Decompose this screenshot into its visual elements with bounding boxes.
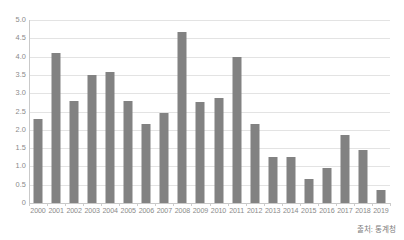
- bar-2002[interactable]: [70, 101, 79, 203]
- x-axis-tick-label-2018: 2018: [354, 206, 372, 216]
- y-axis-tick-label: 0.5: [0, 181, 26, 189]
- bar-2010[interactable]: [214, 98, 223, 203]
- x-axis-tick-label-2008: 2008: [173, 206, 191, 216]
- bar-slot: [155, 20, 173, 203]
- x-axis-tick-label-2004: 2004: [101, 206, 119, 216]
- bar-slot: [137, 20, 155, 203]
- y-axis-tick-label: 2.0: [0, 126, 26, 134]
- x-axis-tick-label-2003: 2003: [83, 206, 101, 216]
- bar-2016[interactable]: [322, 168, 331, 203]
- y-axis-tick-label-group: 00.51.01.52.02.53.03.54.04.55.0: [0, 0, 26, 240]
- bar-2013[interactable]: [268, 157, 277, 203]
- bar-2012[interactable]: [250, 124, 259, 203]
- bar-slot: [318, 20, 336, 203]
- bar-2007[interactable]: [160, 113, 169, 203]
- bar-slot: [191, 20, 209, 203]
- bar-slot: [210, 20, 228, 203]
- x-axis-tick-label-2000: 2000: [29, 206, 47, 216]
- bar-slot: [83, 20, 101, 203]
- bar-2015[interactable]: [304, 179, 313, 203]
- bar-2001[interactable]: [52, 53, 61, 203]
- x-axis-tick-label-2009: 2009: [191, 206, 209, 216]
- y-axis-tick-label: 0: [0, 199, 26, 207]
- x-axis-tick-label-2016: 2016: [318, 206, 336, 216]
- x-axis-tick-label-2015: 2015: [300, 206, 318, 216]
- x-axis-tick-label-2017: 2017: [336, 206, 354, 216]
- y-axis-tick-label: 5.0: [0, 16, 26, 24]
- x-axis-tick-label-2006: 2006: [137, 206, 155, 216]
- bar-slot: [264, 20, 282, 203]
- x-axis-tick-label-2002: 2002: [65, 206, 83, 216]
- bar-2011[interactable]: [232, 57, 241, 203]
- y-axis-tick-label: 4.5: [0, 34, 26, 42]
- bar-slot: [228, 20, 246, 203]
- y-axis-tick-label: 1.0: [0, 162, 26, 170]
- bar-2005[interactable]: [124, 101, 133, 203]
- x-axis-tick-label-2019: 2019: [372, 206, 390, 216]
- x-axis-tick-label-2001: 2001: [47, 206, 65, 216]
- x-axis-tick-label-2011: 2011: [228, 206, 246, 216]
- bar-slot: [101, 20, 119, 203]
- bar-series: [29, 20, 390, 203]
- y-axis-tick-label: 3.0: [0, 89, 26, 97]
- bar-slot: [282, 20, 300, 203]
- bar-2000[interactable]: [34, 119, 43, 203]
- bar-2004[interactable]: [106, 72, 115, 203]
- x-axis-tick-label-2010: 2010: [210, 206, 228, 216]
- x-axis-tick-label-2007: 2007: [155, 206, 173, 216]
- x-axis-tick-label-2012: 2012: [246, 206, 264, 216]
- y-axis-tick-label: 3.5: [0, 71, 26, 79]
- source-note: 출처: 통계청: [357, 225, 396, 235]
- bar-slot: [354, 20, 372, 203]
- bar-slot: [119, 20, 137, 203]
- x-axis-tick-label-2013: 2013: [264, 206, 282, 216]
- bar-slot: [246, 20, 264, 203]
- bar-slot: [65, 20, 83, 203]
- bar-chart-figure: 00.51.01.52.02.53.03.54.04.55.0 20002001…: [0, 0, 404, 240]
- bar-slot: [372, 20, 390, 203]
- bar-slot: [336, 20, 354, 203]
- bar-2008[interactable]: [178, 32, 187, 203]
- bar-2019[interactable]: [376, 190, 385, 203]
- bar-2006[interactable]: [142, 124, 151, 203]
- bar-2003[interactable]: [88, 75, 97, 203]
- bar-2018[interactable]: [358, 150, 367, 203]
- bar-2009[interactable]: [196, 102, 205, 203]
- bar-slot: [47, 20, 65, 203]
- bar-slot: [29, 20, 47, 203]
- x-axis-tick-label-2014: 2014: [282, 206, 300, 216]
- y-axis-tick-label: 2.5: [0, 108, 26, 116]
- x-axis-tick-mark: [390, 203, 391, 206]
- x-axis-tick-label-group: 2000200120022003200420052006200720082009…: [29, 206, 390, 220]
- x-axis-tick-label-2005: 2005: [119, 206, 137, 216]
- y-axis-tick-label: 1.5: [0, 144, 26, 152]
- bar-2014[interactable]: [286, 157, 295, 203]
- bar-2017[interactable]: [340, 135, 349, 203]
- y-axis-tick-label: 4.0: [0, 53, 26, 61]
- bar-slot: [300, 20, 318, 203]
- bar-slot: [173, 20, 191, 203]
